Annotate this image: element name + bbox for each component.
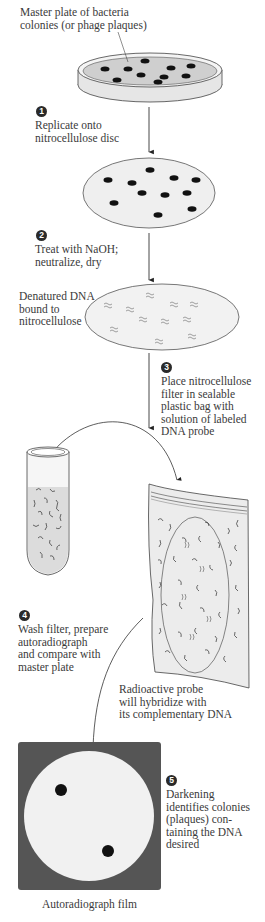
denatured-dna-label: Denatured DNA bound to nitrocellulose [19,290,95,328]
plastic-bag-icon [149,484,250,688]
step-5-text: Darkening identifies colonies (plaques) … [166,788,250,851]
master-plate-label: Master plate of bacteria colonies (or ph… [20,6,147,31]
radioactive-probe-label: Radioactive probe will hybridize with it… [119,683,232,721]
step-4-text: Wash filter, prepare autoradiograph and … [18,623,108,673]
step-2-badge: 2 [36,230,47,241]
step-2-text: Treat with NaOH; neutralize, dry [35,243,118,268]
step-1-text: Replicate onto nitrocellulose disc [35,119,119,144]
step-4-badge: 4 [19,610,30,621]
test-tube-icon [27,447,69,575]
autoradiograph-film-icon [18,742,161,890]
nitrocellulose-disc-icon [83,158,215,228]
petri-dish-icon [78,32,222,102]
step-5-badge: 5 [166,775,177,786]
step-3-badge: 3 [161,362,172,373]
step-3-text: Place nitrocellulose filter in sealable … [161,375,251,438]
denatured-dna-disc-icon [85,284,239,350]
step-1-badge: 1 [36,106,47,117]
film-label: Autoradiograph film [42,898,137,911]
